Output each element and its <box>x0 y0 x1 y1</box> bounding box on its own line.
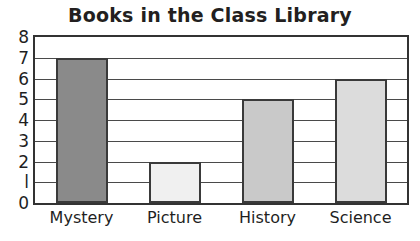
bars-group <box>35 37 407 203</box>
bar-history[interactable] <box>242 99 294 203</box>
y-tick-label-6: 6 <box>3 70 29 87</box>
y-axis-tick-labels: 0l2345678 <box>0 35 29 205</box>
x-tick-label-science: Science <box>329 207 391 229</box>
y-tick-label-1: l <box>3 174 29 191</box>
y-tick-label-7: 7 <box>3 49 29 66</box>
bar-chart-screenshot: Books in the Class Library 0l2345678 Mys… <box>0 0 420 241</box>
y-tick-label-0: 0 <box>3 195 29 212</box>
chart-title: Books in the Class Library <box>0 4 420 26</box>
x-tick-label-picture: Picture <box>147 207 202 229</box>
bar-science[interactable] <box>335 79 387 204</box>
y-tick-label-3: 3 <box>3 132 29 149</box>
bar-picture[interactable] <box>149 162 201 204</box>
bar-mystery[interactable] <box>56 58 108 203</box>
x-axis-category-labels: MysteryPictureHistoryScience <box>33 207 409 235</box>
y-tick-label-4: 4 <box>3 112 29 129</box>
y-tick-label-5: 5 <box>3 91 29 108</box>
x-tick-label-mystery: Mystery <box>50 207 114 229</box>
x-tick-label-history: History <box>239 207 296 229</box>
y-tick-label-8: 8 <box>3 29 29 46</box>
y-tick-label-2: 2 <box>3 153 29 170</box>
plot-area <box>33 35 409 205</box>
